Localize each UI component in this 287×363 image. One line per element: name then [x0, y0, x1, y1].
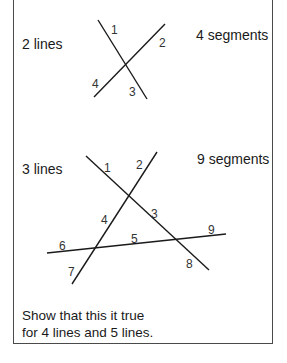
segment-label: 5 [131, 232, 138, 246]
instruction-line-2: for 4 lines and 5 lines. [22, 324, 153, 341]
segment-label: 4 [101, 213, 108, 227]
segment-label: 1 [111, 23, 118, 37]
segment-label: 3 [151, 207, 158, 221]
segment-label: 8 [186, 257, 193, 271]
segment-label: 7 [68, 265, 75, 279]
segment-label: 1 [104, 161, 111, 175]
line-1a [98, 20, 147, 99]
segment-label: 9 [208, 223, 215, 237]
instruction-text: Show that this it true for 4 lines and 5… [22, 307, 153, 341]
segment-label: 2 [136, 158, 143, 172]
line-2b [72, 152, 157, 284]
segment-label: 6 [59, 239, 66, 253]
segment-label: 3 [129, 85, 136, 99]
segment-label: 2 [159, 36, 166, 50]
instruction-line-1: Show that this it true [22, 307, 153, 324]
segment-label: 4 [92, 77, 99, 91]
